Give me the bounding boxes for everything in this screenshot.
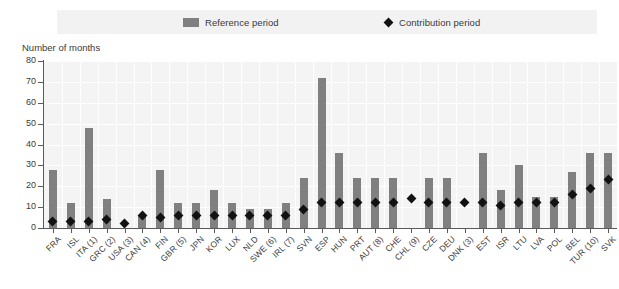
x-axis-tick-label: LTU [510,234,528,252]
x-axis-tick-label: JPN [188,234,207,253]
x-axis-tick-label: SVN [294,234,314,254]
x-axis-tick-label: EST [474,234,493,253]
x-axis-tick-label: LVA [529,234,547,252]
chart-page: Reference period Contribution period Num… [0,0,619,289]
x-axis-tick-label: SVK [599,234,618,253]
x-axis-tick-labels: FRAISLITA (1)GRC (2)USA (3)CAN (4)FINGBR… [0,0,619,289]
x-axis-tick-label: CZE [420,234,439,253]
x-axis-tick-label: ESP [312,234,331,253]
x-axis-tick-label: LUX [223,234,242,253]
x-axis-tick-label: POL [545,234,564,253]
x-axis-tick-label: FRA [44,234,63,253]
x-axis-tick-label: ISR [493,234,510,251]
x-axis-tick-label: HUN [329,234,349,254]
x-axis-tick-label: KOR [204,234,224,254]
